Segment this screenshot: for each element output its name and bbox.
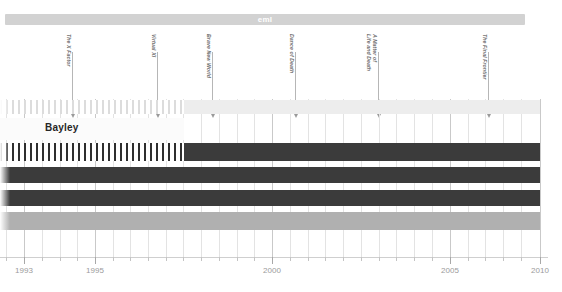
time-axis: 19931995200020052010 xyxy=(0,257,562,292)
axis-line xyxy=(0,257,548,258)
bar-segment xyxy=(184,143,540,161)
bayley-callout: Bayley xyxy=(0,118,184,140)
axis-tick-minor xyxy=(308,257,309,261)
left-fade xyxy=(0,167,10,183)
bar-segment xyxy=(0,143,184,161)
axis-tick-major xyxy=(450,257,451,264)
axis-tick-minor xyxy=(290,257,291,261)
axis-tick-minor xyxy=(201,257,202,261)
bar-row xyxy=(0,167,562,183)
bar-segment xyxy=(184,100,540,114)
event-marker-label: Virtual XI xyxy=(150,34,156,57)
event-marker-label: Dance of Death xyxy=(288,34,294,73)
axis-tick-label: 2005 xyxy=(441,266,459,275)
axis-tick-minor xyxy=(77,257,78,261)
bar-row xyxy=(0,190,562,206)
bar-segment xyxy=(0,167,540,183)
axis-tick-minor xyxy=(485,257,486,261)
axis-tick-minor xyxy=(521,257,522,261)
axis-tick-minor xyxy=(166,257,167,261)
axis-tick-label: 2000 xyxy=(263,266,281,275)
axis-tick-minor xyxy=(60,257,61,261)
left-fade xyxy=(0,143,10,161)
event-marker-label: Brave New World xyxy=(205,34,211,78)
axis-tick-minor xyxy=(361,257,362,261)
axis-tick-label: 1993 xyxy=(15,266,33,275)
axis-tick-minor xyxy=(6,257,7,261)
bar-row xyxy=(0,212,562,230)
axis-tick-major xyxy=(540,257,541,264)
bar-segment xyxy=(0,190,540,206)
axis-tick-minor xyxy=(379,257,380,261)
axis-tick-minor xyxy=(130,257,131,261)
bayley-callout-label: Bayley xyxy=(45,122,78,133)
axis-tick-minor xyxy=(396,257,397,261)
axis-tick-minor xyxy=(414,257,415,261)
axis-tick-minor xyxy=(219,257,220,261)
bar-segment xyxy=(0,100,184,114)
axis-tick-minor xyxy=(468,257,469,261)
axis-tick-minor xyxy=(432,257,433,261)
bar-segment xyxy=(0,212,540,230)
event-marker-label: The Final Frontier xyxy=(481,34,487,80)
event-marker-label: A Matter of Life and Death xyxy=(366,34,377,71)
axis-tick-minor xyxy=(113,257,114,261)
axis-tick-minor xyxy=(325,257,326,261)
axis-tick-major xyxy=(95,257,96,264)
axis-tick-label: 2010 xyxy=(531,266,549,275)
axis-tick-minor xyxy=(343,257,344,261)
bar-row xyxy=(0,143,562,161)
event-marker-label: The X Factor xyxy=(65,34,71,67)
left-fade xyxy=(0,212,10,230)
axis-tick-minor xyxy=(183,257,184,261)
timeline-chart: eml The X FactorVirtual XIBrave New Worl… xyxy=(0,0,562,292)
left-fade xyxy=(0,100,10,114)
eml-banner-label: eml xyxy=(5,14,525,25)
axis-tick-minor xyxy=(254,257,255,261)
eml-banner: eml xyxy=(5,14,525,25)
axis-tick-major xyxy=(24,257,25,264)
axis-tick-minor xyxy=(148,257,149,261)
axis-tick-minor xyxy=(42,257,43,261)
axis-tick-label: 1995 xyxy=(86,266,104,275)
bar-row xyxy=(0,100,562,114)
axis-tick-minor xyxy=(237,257,238,261)
axis-tick-minor xyxy=(503,257,504,261)
left-fade xyxy=(0,190,10,206)
axis-tick-major xyxy=(272,257,273,264)
